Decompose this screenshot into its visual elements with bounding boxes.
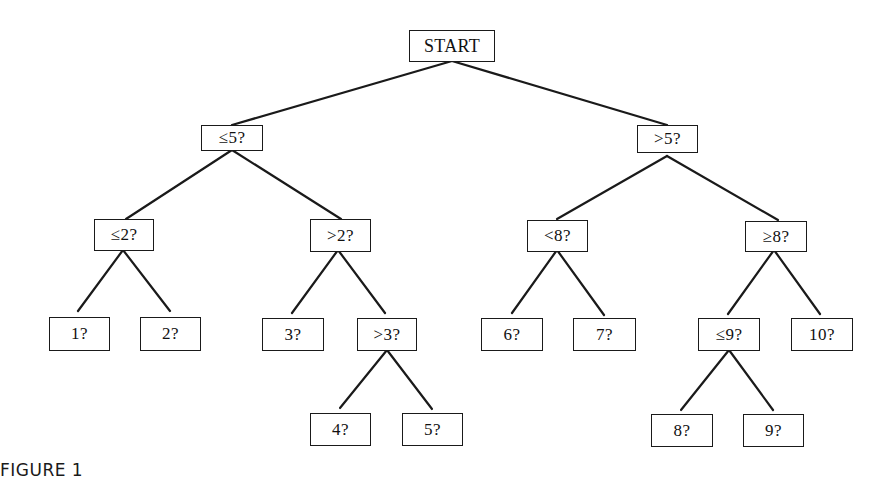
node-10: 10? (791, 318, 853, 351)
edge-le2-n2 (123, 250, 170, 311)
edge-le5-gt2 (232, 150, 341, 219)
node-start: START (409, 30, 495, 62)
node-le2: ≤2? (94, 219, 154, 251)
figure-caption: FIGURE 1 (0, 460, 83, 480)
edge-gt5-ge8 (667, 156, 778, 220)
node-2: 2? (140, 317, 201, 351)
node-ge8: ≥8? (745, 221, 807, 252)
edge-le2-n1 (78, 250, 123, 311)
edge-le5-le2 (126, 150, 232, 219)
edge-gt3-n5 (387, 350, 432, 409)
node-4: 4? (310, 413, 371, 446)
node-gt5: >5? (637, 125, 698, 153)
edge-gt2-n3 (292, 250, 338, 313)
edge-lt8-n6 (512, 250, 557, 313)
edge-gt5-lt8 (557, 156, 667, 219)
edge-le9-n8 (681, 350, 729, 410)
edge-le9-n9 (729, 350, 773, 410)
node-3: 3? (262, 318, 324, 351)
node-8: 8? (651, 414, 713, 447)
edge-start-gt5 (452, 61, 667, 125)
node-le9: ≤9? (698, 318, 760, 351)
node-7: 7? (573, 318, 636, 351)
node-lt8: <8? (527, 220, 588, 252)
figure-canvas: START ≤5? >5? ≤2? >2? <8? ≥8? 1? 2? 3? >… (0, 0, 890, 492)
node-gt2: >2? (310, 219, 371, 252)
node-6: 6? (481, 318, 543, 351)
edge-ge8-n10 (774, 250, 820, 314)
edge-ge8-le9 (728, 250, 774, 314)
node-gt3: >3? (357, 318, 417, 351)
edge-gt2-gt3 (338, 250, 385, 313)
edge-start-le5 (232, 61, 452, 125)
node-9: 9? (743, 414, 804, 447)
node-5: 5? (402, 413, 463, 446)
node-le5: ≤5? (201, 125, 263, 151)
node-1: 1? (49, 317, 110, 351)
edge-lt8-n7 (557, 250, 604, 315)
edge-gt3-n4 (340, 350, 387, 408)
